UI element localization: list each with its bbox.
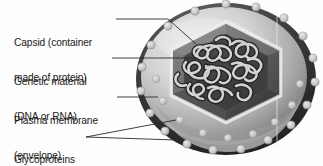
label-plasma-line1: Plasma membrane <box>14 115 98 127</box>
label-glycoproteins-line1: Glycoproteins <box>14 154 75 166</box>
label-glycoproteins: Glycoproteins <box>14 131 75 166</box>
label-genetic-line1: Genetic material <box>14 76 87 88</box>
leader-line-glycoprotein-lower <box>86 137 176 140</box>
virus-structure-figure: Capsid (container made of protein) Genet… <box>0 0 323 166</box>
label-capsid-line1: Capsid (container <box>14 37 92 49</box>
